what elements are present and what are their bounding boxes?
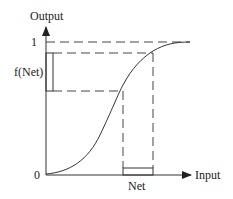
sigmoid-diagram: Output 1 0 f(Net) Net Input [0,0,233,199]
sigmoid-curve [46,42,190,174]
guide-lines [46,42,190,168]
net-label: Net [128,179,146,193]
y-axis-label: Output [30,9,64,23]
y-tick-zero: 0 [34,168,40,182]
y-tick-one: 1 [31,35,37,49]
net-range-box [123,168,153,175]
f-net-range-box [46,53,53,91]
f-net-label: f(Net) [14,65,43,79]
x-axis-label: Input [195,168,221,182]
